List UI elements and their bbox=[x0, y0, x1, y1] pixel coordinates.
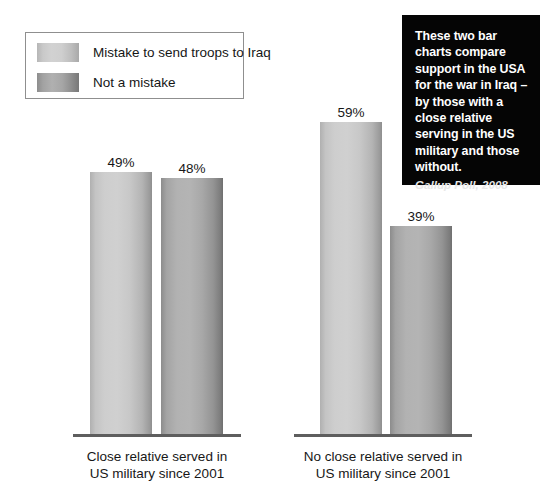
bar-group2-mistake bbox=[320, 122, 382, 435]
bar-value-label: 59% bbox=[320, 105, 382, 120]
bar-value-label: 49% bbox=[90, 155, 152, 170]
group-label-line2: US military since 2001 bbox=[90, 466, 224, 481]
legend-item-label: Not a mistake bbox=[93, 75, 176, 90]
annotation-body: These two bar charts compare support in … bbox=[415, 28, 529, 176]
legend-swatch-light-icon bbox=[37, 43, 79, 62]
bar-group1-mistake bbox=[90, 172, 152, 435]
legend-item-mistake: Mistake to send troops to Iraq bbox=[37, 43, 271, 62]
chart-legend: Mistake to send troops to Iraq Not a mis… bbox=[25, 32, 244, 99]
group-label-line2: US military since 2001 bbox=[316, 466, 450, 481]
annotation-callout: These two bar charts compare support in … bbox=[402, 15, 540, 185]
legend-item-label: Mistake to send troops to Iraq bbox=[93, 45, 271, 60]
axis-line-group2 bbox=[294, 434, 472, 437]
bar-value-label: 39% bbox=[390, 209, 452, 224]
legend-item-not-a-mistake: Not a mistake bbox=[37, 73, 176, 92]
bar-group2-not-a-mistake bbox=[390, 226, 452, 435]
group-label-close-relative: Close relative served in US military sin… bbox=[62, 448, 252, 482]
group-label-line1: No close relative served in bbox=[304, 449, 462, 464]
bar-group1-not-a-mistake bbox=[161, 178, 223, 435]
annotation-source: Gallup Poll, 2008 bbox=[415, 177, 529, 192]
legend-swatch-dark-icon bbox=[37, 73, 79, 92]
axis-line-group1 bbox=[73, 434, 241, 437]
bar-value-label: 48% bbox=[161, 161, 223, 176]
group-label-line1: Close relative served in bbox=[87, 449, 227, 464]
chart-canvas: Mistake to send troops to Iraq Not a mis… bbox=[0, 0, 560, 482]
group-label-no-close-relative: No close relative served in US military … bbox=[288, 448, 478, 482]
